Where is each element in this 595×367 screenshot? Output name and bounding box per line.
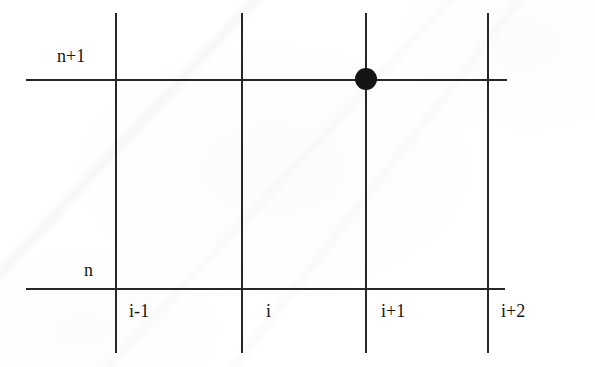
space-node-label-i-plus-1: i+1 [381, 302, 405, 320]
grid-line-vertical-i-plus-1 [365, 13, 367, 353]
space-node-label-i: i [266, 302, 271, 320]
time-level-label-n: n [84, 261, 93, 279]
grid-line-vertical-i-minus-1 [115, 13, 117, 353]
time-level-label-n-plus-1: n+1 [57, 47, 85, 65]
grid-line-horizontal-time-n [26, 288, 505, 290]
node-marker-i-plus-1-n-plus-1 [355, 68, 377, 90]
grid-line-vertical-i-plus-2 [487, 13, 489, 353]
grid-stencil-figure: n+1 n i-1 i i+1 i+2 [0, 0, 595, 367]
space-node-label-i-minus-1: i-1 [129, 302, 149, 320]
grid-line-horizontal-time-n-plus-1 [26, 79, 507, 81]
grid-line-vertical-i [241, 13, 243, 353]
space-node-label-i-plus-2: i+2 [501, 302, 525, 320]
